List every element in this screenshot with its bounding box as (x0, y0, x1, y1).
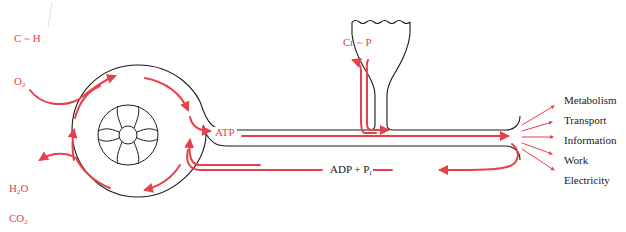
use-transport: Transport (564, 115, 606, 126)
adp-base: ADP + P (330, 163, 369, 175)
oxygen-base: O (14, 75, 22, 87)
creatine-phosphate-up-arrow (353, 60, 376, 133)
energy-flow-diagram (0, 0, 626, 232)
scan-artifact (48, 2, 52, 28)
oxygen-label: O2 (14, 76, 25, 89)
adp-label: ADP + Pi (328, 164, 373, 177)
water-output-arrow (40, 154, 76, 160)
water-label: H2O (9, 183, 28, 196)
creatine-phosphate-down-arrow (367, 60, 388, 130)
cycle-arrow-top-right (145, 78, 188, 110)
water-base: H (9, 182, 17, 194)
co2-base: CO (9, 212, 24, 224)
use-work: Work (564, 155, 588, 166)
co2-sub: 2 (24, 218, 28, 226)
cycle-arrow-bottom-left (76, 158, 110, 188)
fuel-label: C ~ H (14, 33, 41, 44)
use-information: Information (564, 135, 617, 146)
rotor-icon (98, 105, 158, 165)
creatine-phosphate-label: Cr ~ P (343, 37, 372, 48)
use-metabolism: Metabolism (564, 95, 617, 106)
adp-flow-arrow-right (440, 144, 518, 170)
co2-label: CO2 (9, 213, 28, 226)
water-tail: O (20, 182, 28, 194)
cycle-arrow-upper-left (75, 86, 100, 118)
oxygen-sub: 2 (22, 81, 26, 89)
adp-sub: i (369, 169, 371, 177)
oxygen-input-arrow (30, 76, 115, 104)
use-electricity: Electricity (564, 175, 610, 186)
atp-label: ATP (213, 127, 237, 138)
use-arrows (522, 106, 554, 170)
adp-return-arrow (189, 140, 260, 165)
